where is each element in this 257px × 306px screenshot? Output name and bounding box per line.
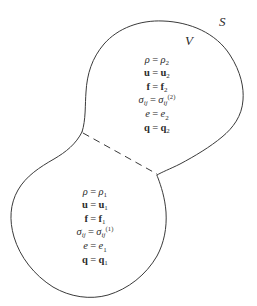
volume-label-v: V [185, 34, 193, 47]
subscript-ij: ij [82, 231, 86, 239]
interface-dashed-line [83, 133, 157, 174]
equals-sign: = [88, 185, 98, 198]
surface-label-s: S [219, 15, 226, 28]
equation-block-region-2: ρ=ρ2 u=u2 f=f2 σij=σij(2) e=e2 q=q2 [117, 53, 197, 134]
equation-velocity-2: u=u2 [144, 66, 170, 79]
subscript-2: 2 [166, 59, 170, 67]
subscript-ij: ij [163, 99, 167, 107]
subscript-1: 1 [104, 191, 108, 199]
subscript-2: 2 [166, 72, 170, 80]
subscript-2: 2 [166, 127, 170, 135]
equation-density-2: ρ=ρ2 [145, 53, 169, 66]
symbol-sigma-value: σij(1) [96, 225, 113, 241]
subscript-1: 1 [104, 204, 108, 212]
equation-density-1: ρ=ρ1 [83, 185, 107, 198]
equals-sign: = [150, 107, 160, 120]
subscript-ij: ij [101, 231, 105, 239]
equals-sign: = [88, 253, 98, 266]
subscript-1: 1 [103, 246, 107, 254]
subscript-1: 1 [104, 259, 108, 267]
equation-heatflux-1: q=q1 [82, 253, 108, 266]
equation-stress-1: σij=σij(1) [76, 225, 113, 240]
superscript-region-2: (2) [168, 93, 176, 100]
equals-sign: = [88, 198, 98, 211]
superscript-region-1: (1) [106, 225, 114, 232]
symbol-sigma-value: σij(2) [158, 93, 175, 109]
equals-sign: = [150, 66, 160, 79]
symbol-q-value: q1 [98, 253, 108, 268]
equals-sign: = [150, 53, 160, 66]
equation-energy-2: e=e2 [145, 107, 169, 120]
figure-container: S V ρ=ρ2 u=u2 f=f2 σij=σij(2) e=e2 q=q2 … [0, 0, 257, 306]
equation-velocity-1: u=u1 [82, 198, 108, 211]
equals-sign: = [88, 239, 98, 252]
subscript-ij: ij [144, 99, 148, 107]
equals-sign: = [86, 225, 96, 240]
equals-sign: = [88, 212, 98, 225]
equation-heatflux-2: q=q2 [144, 121, 170, 134]
subscript-2: 2 [165, 114, 169, 122]
symbol-sigma: σij [138, 93, 147, 109]
equals-sign: = [148, 93, 158, 108]
symbol-sigma: σij [76, 225, 85, 241]
equation-bodyforce-2: f=f2 [146, 80, 167, 93]
equals-sign: = [150, 80, 160, 93]
equation-stress-2: σij=σij(2) [138, 93, 175, 108]
equation-block-region-1: ρ=ρ1 u=u1 f=f1 σij=σij(1) e=e1 q=q1 [55, 185, 135, 266]
equation-bodyforce-1: f=f1 [84, 212, 105, 225]
equation-energy-1: e=e1 [83, 239, 107, 252]
equals-sign: = [150, 121, 160, 134]
symbol-q-value: q2 [160, 121, 170, 136]
